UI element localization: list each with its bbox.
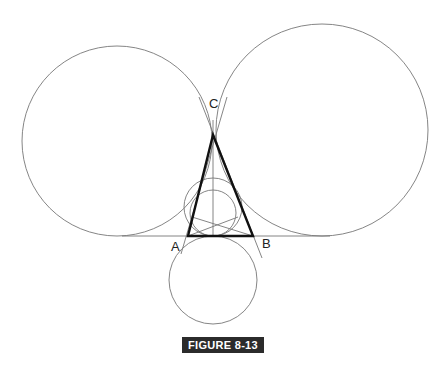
label-a: A bbox=[171, 239, 180, 254]
geometry-diagram bbox=[0, 0, 444, 366]
label-c: C bbox=[209, 96, 218, 111]
right-excircle bbox=[216, 24, 428, 236]
figure-caption: FIGURE 8-13 bbox=[182, 337, 264, 353]
label-b: B bbox=[262, 236, 271, 251]
triangle-abc bbox=[188, 135, 253, 236]
left-excircle bbox=[22, 46, 212, 236]
